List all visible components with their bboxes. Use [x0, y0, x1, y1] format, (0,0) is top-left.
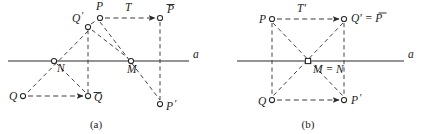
panel-a-line-Qprime-to-P — [91, 20, 97, 24]
panel-b-label-P-prime: P — [350, 94, 358, 106]
panel-b-label-axis: a — [408, 48, 414, 60]
figure-page: P P Q ′ N M Q Q P ′ T a (a) — [0, 0, 422, 134]
panel-a-node-Q — [20, 93, 25, 98]
panel-a-line-Qprime-to-M — [92, 30, 128, 58]
panel-a-node-P-tilde — [157, 15, 162, 20]
panel-a-label-axis: a — [193, 48, 199, 60]
panel-b-node-Q — [269, 97, 274, 102]
panel-a: P P Q ′ N M Q Q P ′ T a (a) — [8, 0, 199, 131]
geometry-figure: P P Q ′ N M Q Q P ′ T a (a) — [0, 0, 422, 134]
panel-b-label-P: P — [258, 13, 266, 25]
panel-a-node-Q-tilde — [85, 93, 90, 98]
panel-a-label-Q: Q — [9, 90, 18, 102]
panel-b-prime-mark-P-prime: ′ — [359, 92, 362, 103]
panel-a-node-N — [51, 58, 56, 63]
panel-a-prime-mark-Q-prime: ′ — [81, 10, 84, 21]
panel-a-node-Q-prime — [85, 24, 90, 29]
panel-a-label-N: N — [56, 62, 66, 74]
panel-b-caption: (b) — [302, 118, 315, 131]
panel-a-label-Q-prime: Q — [72, 12, 81, 24]
panel-b-node-Qprime-Ptilde — [341, 16, 346, 21]
panel-a-label-T: T — [125, 1, 133, 13]
panel-a-label-P-prime: P — [165, 100, 173, 112]
panel-b-label-Qprime-eq-Ptilde: Q′ = P — [351, 12, 382, 24]
panel-a-caption: (a) — [90, 118, 103, 131]
panel-b-node-P — [269, 16, 274, 21]
panel-a-label-P: P — [95, 0, 103, 12]
panel-b-label-M-eq-N: M = N — [312, 63, 345, 75]
panel-a-label-M: M — [126, 63, 138, 75]
panel-b-label-T-prime: T′ — [297, 2, 306, 14]
panel-b-node-M-equals-N — [305, 58, 310, 63]
panel-b-label-Q: Q — [258, 95, 267, 107]
panel-a-node-P — [97, 15, 102, 20]
panel-a-prime-mark-P-prime: ′ — [174, 98, 177, 109]
panel-b: P Q′ = P M = N Q P ′ T′ a (b) — [237, 2, 414, 131]
panel-a-node-P-prime — [157, 101, 162, 106]
panel-b-node-P-prime — [341, 97, 346, 102]
